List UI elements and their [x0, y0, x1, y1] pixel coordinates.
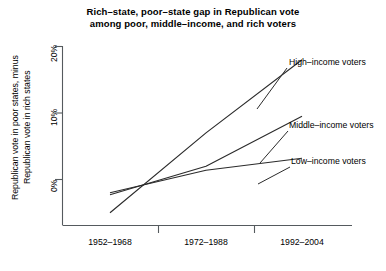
series-line-middle-income — [110, 116, 302, 195]
series-label-low-income: Low–income voters — [291, 156, 367, 166]
chart-container: Rich–state, poor–state gap in Republican… — [0, 0, 386, 271]
x-tick-label-0: 1952–1968 — [88, 237, 132, 247]
series-line-high-income — [110, 60, 302, 213]
leader-line-high-income — [257, 68, 287, 109]
y-tick-label-1: 10% — [49, 109, 59, 126]
y-tick-label-0: 0% — [49, 179, 59, 192]
y-axis-label: Republican vote in poor states, minus Re… — [10, 54, 32, 200]
leader-line-low-income — [258, 167, 290, 184]
y-tick-label-2: 20% — [49, 45, 59, 62]
y-axis-label-line-1: Republican vote in poor states, minus — [10, 54, 20, 200]
chart-svg: Republican vote in poor states, minus Re… — [0, 0, 386, 271]
x-tick-labels: 1952–1968 1972–1988 1992–2004 — [88, 237, 324, 247]
series-label-middle-income: Middle–income voters — [289, 120, 374, 130]
x-tick-label-2: 1992–2004 — [280, 237, 324, 247]
y-axis-label-line-2: Republican vote in rich states — [22, 70, 32, 184]
y-tick-labels: 0% 10% 20% — [49, 45, 59, 192]
series-label-high-income: High–income voters — [289, 57, 366, 67]
x-tick-label-1: 1972–1988 — [184, 237, 228, 247]
